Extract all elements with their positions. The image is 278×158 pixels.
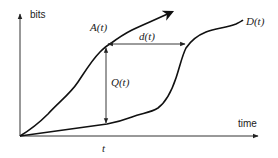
x-axis-label: time — [238, 118, 257, 129]
cumulative-arrival-departure-diagram: bits time A(t) D(t) Q(t) d(t) t — [0, 0, 278, 158]
arrival-curve-label: A(t) — [89, 21, 107, 34]
queue-label: Q(t) — [111, 76, 130, 89]
delay-label: d(t) — [139, 30, 155, 43]
time-marker-label: t — [102, 142, 106, 154]
departure-curve-label: D(t) — [245, 15, 265, 28]
y-axis-label: bits — [30, 9, 46, 20]
departure-curve — [20, 20, 243, 136]
